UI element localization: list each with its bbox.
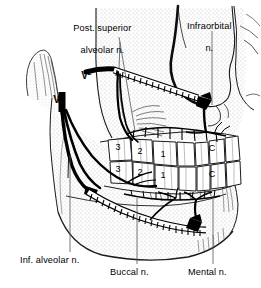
- label-mental: Mental n.: [188, 267, 227, 278]
- label-infraorbital-line2: n.: [205, 43, 213, 53]
- tooth-label-upper-c: C: [206, 143, 218, 153]
- label-psa-line1: Post. superior: [73, 23, 131, 33]
- label-v3-mandibular-division: V3: [42, 82, 63, 116]
- tooth-label-upper-1: 1: [157, 149, 169, 159]
- tooth-label-upper-3: 3: [112, 142, 124, 152]
- label-v2-maxillary-division: V2: [70, 58, 91, 92]
- v2-superscript: 2: [88, 69, 92, 76]
- label-post-superior-alveolar: Post. superior alveolar n.: [52, 12, 142, 67]
- label-infraorbital-line1: Infraorbital: [187, 21, 232, 31]
- v3-base: V: [53, 94, 60, 105]
- anatomical-figure: Post. superior alveolar n. Infraorbital …: [0, 0, 261, 288]
- tooth-label-lower-2: 2: [134, 167, 146, 177]
- tooth-label-upper-2: 2: [134, 146, 146, 156]
- v2-base: V: [81, 70, 88, 81]
- label-infraorbital: Infraorbital n.: [168, 10, 240, 65]
- label-psa-line2: alveolar n.: [81, 45, 125, 55]
- label-buccal: Buccal n.: [110, 267, 149, 278]
- tooth-label-lower-3: 3: [112, 164, 124, 174]
- v3-superscript: 3: [60, 93, 64, 100]
- tooth-label-lower-c: C: [206, 169, 218, 179]
- tooth-label-lower-1: 1: [157, 170, 169, 180]
- label-inf-alveolar: Inf. alveolar n.: [20, 255, 79, 266]
